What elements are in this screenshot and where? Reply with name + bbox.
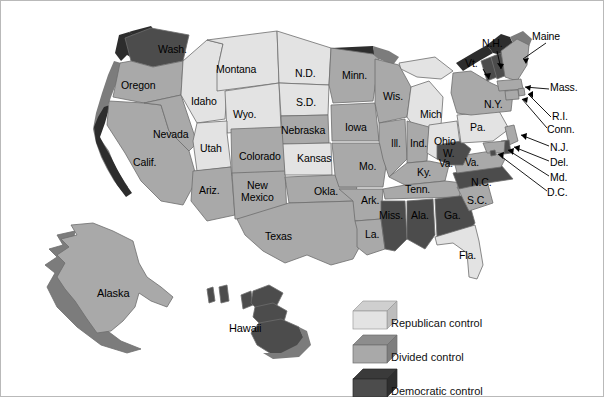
map-stage: .rep { fill:#e3e3e3; } .div { fill:#a9a9… [1, 1, 604, 397]
leader-md [508, 150, 549, 176]
state-label: Idaho [191, 96, 217, 107]
state-label: S.C. [467, 195, 487, 206]
state-label: Ky. [417, 167, 431, 178]
state-label: D.C. [547, 187, 568, 198]
state-label: N.H. [482, 38, 503, 49]
state-label: Ill. [391, 138, 401, 149]
state-label: Ariz. [199, 185, 220, 196]
state-label: Miss. [379, 210, 403, 221]
leader-conn [522, 99, 547, 128]
legend-label-republican: Republican control [391, 317, 482, 329]
state-label: Va. [465, 157, 479, 168]
state-label: Colorado [239, 151, 281, 162]
state-label: Okla. [314, 186, 338, 197]
state-label: Minn. [342, 70, 367, 81]
state-label: Montana [216, 64, 256, 75]
state-connecticut [505, 90, 519, 100]
state-new-york [451, 71, 513, 115]
state-label: Iowa [345, 122, 367, 133]
state-label: Vt. [465, 58, 478, 69]
state-label: Ark. [361, 195, 379, 206]
state-label: Nevada [153, 129, 189, 140]
state-label: Nebraska [281, 125, 325, 136]
state-label: N.D. [295, 68, 316, 79]
state-label: Ind. [410, 138, 427, 149]
hawaii-island-1 [207, 287, 215, 303]
state-label: Md. [550, 172, 567, 183]
state-label: Wash. [158, 44, 187, 55]
state-label: Utah [200, 143, 222, 154]
legend-label-divided: Divided control [391, 351, 464, 363]
state-label: New [247, 180, 268, 191]
state-label: Fla. [459, 250, 476, 261]
state-label: Kansas [297, 153, 331, 164]
legend-swatches [349, 297, 589, 397]
state-rhode-island [518, 88, 525, 96]
state-label: Mo. [359, 161, 376, 172]
state-label: N.J. [550, 142, 568, 153]
state-label: Texas [265, 231, 292, 242]
state-label: Wis. [383, 91, 403, 102]
state-label: Va. [439, 158, 453, 169]
state-label: S.D. [296, 97, 316, 108]
state-label: Mexico [241, 192, 274, 203]
state-label: Hawaii [229, 323, 261, 334]
state-label: Wyo. [233, 109, 256, 120]
leader-ri [528, 94, 551, 117]
state-label: N.C. [471, 177, 492, 188]
state-label: Maine [532, 31, 560, 42]
state-label: Ohio [434, 136, 456, 147]
state-label: Mich [420, 109, 442, 120]
state-label: Pa. [470, 122, 485, 133]
state-label: N.Y. [484, 99, 503, 110]
state-label: Mass. [550, 82, 578, 93]
state-district-of-columbia [490, 150, 496, 156]
legend-label-democratic: Democratic control [391, 385, 483, 397]
image-frame: .rep { fill:#e3e3e3; } .div { fill:#a9a9… [0, 0, 604, 397]
state-label: Ala. [411, 210, 429, 221]
state-label: R.I. [552, 111, 568, 122]
state-label: Calif. [133, 157, 156, 168]
state-label: Del. [550, 157, 568, 168]
state-label: Oregon [121, 80, 155, 91]
state-label: Tenn. [405, 184, 430, 195]
state-label: Alaska [97, 288, 129, 299]
state-michigan-upper [399, 57, 453, 79]
state-alabama [407, 199, 435, 249]
state-label: Ga. [444, 210, 461, 221]
state-label: Conn. [547, 124, 575, 135]
state-label: La. [365, 229, 379, 240]
hawaii-island-2 [219, 285, 229, 303]
